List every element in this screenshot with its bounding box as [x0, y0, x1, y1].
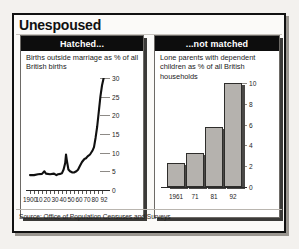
x-tick-label-92: 92	[99, 196, 109, 203]
right-panel-caption: Lone parents with dependent children as …	[160, 53, 275, 81]
y-tick-label-4: 4	[249, 142, 253, 149]
y-tick-label-10: 10	[249, 80, 256, 87]
x-minor-tick	[58, 191, 59, 194]
bar-81	[205, 127, 223, 187]
x-minor-tick	[62, 191, 63, 194]
x-minor-tick	[102, 191, 103, 194]
x-minor-tick	[86, 191, 87, 194]
x-minor-tick	[34, 191, 35, 194]
line-chart-plot: 30 25 20 15 10 5 0	[26, 78, 122, 200]
x-minor-tick	[78, 191, 79, 194]
x-minor-tick	[54, 191, 55, 194]
x-minor-tick	[66, 191, 67, 194]
x-tick-label-71: 71	[185, 193, 205, 200]
x-minor-tick	[70, 191, 71, 194]
x-minor-tick	[50, 191, 51, 194]
source-divider	[16, 209, 282, 210]
y-tick-label-2: 2	[249, 163, 253, 170]
x-minor-tick	[90, 191, 91, 194]
bar-92	[224, 83, 242, 187]
left-panel-header: Hatched...	[21, 36, 143, 51]
left-panel-caption: Births outside marriage as % of all Brit…	[26, 53, 139, 72]
bar-1961	[167, 163, 185, 187]
x-minor-tick	[94, 191, 95, 194]
x-axis-line	[161, 187, 247, 188]
figure-container: Unespoused Hatched... Births outside mar…	[0, 0, 299, 249]
y-tick-label-0: 0	[249, 184, 253, 191]
x-minor-tick	[38, 191, 39, 194]
line-series-path	[26, 78, 122, 200]
x-minor-tick	[30, 191, 31, 194]
source-note: Source: Office of Population Censuses an…	[19, 213, 171, 220]
x-minor-tick	[74, 191, 75, 194]
x-minor-tick	[98, 191, 99, 194]
bar-chart-plot: 10 8 6 4 2 0 1961 71 81 92	[161, 83, 258, 200]
y-tick-label-8: 8	[249, 101, 253, 108]
x-tick-label-1961: 1961	[166, 193, 186, 200]
bar-71	[186, 153, 204, 187]
right-panel-header: ...not matched	[155, 36, 279, 51]
x-tick-label-92: 92	[223, 193, 243, 200]
x-minor-tick	[82, 191, 83, 194]
x-tick-label-81: 81	[204, 193, 224, 200]
y-tick-label-6: 6	[249, 122, 253, 129]
left-panel: Hatched... Births outside marriage as % …	[20, 35, 144, 218]
right-panel: ...not matched Lone parents with depende…	[154, 35, 280, 218]
x-minor-tick	[46, 191, 47, 194]
figure-title: Unespoused	[19, 17, 101, 33]
x-minor-tick	[42, 191, 43, 194]
